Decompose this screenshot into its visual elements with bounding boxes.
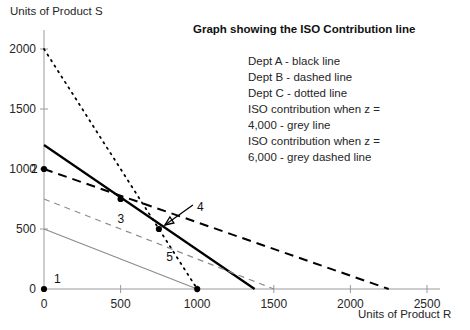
- chart-figure: Units of Product S Graph showing the ISO…: [0, 0, 470, 330]
- data-point-marker: [118, 196, 124, 202]
- data-point-marker: [41, 286, 47, 292]
- x-tick-label: 1000: [177, 298, 217, 310]
- point-label-3: 3: [118, 213, 125, 225]
- series-line: [44, 145, 255, 289]
- plot-area: [0, 0, 470, 330]
- point-label-5: 5: [166, 251, 173, 263]
- series-line: [44, 49, 197, 289]
- x-tick-label: 0: [24, 298, 64, 310]
- series-line: [44, 199, 274, 289]
- point-label-4: 4: [197, 201, 204, 213]
- axes-group: [40, 30, 440, 293]
- y-tick-label: 1500: [2, 103, 36, 115]
- annotation-arrow-line: [165, 205, 193, 225]
- x-tick-label: 500: [101, 298, 141, 310]
- series-group: [44, 49, 389, 289]
- y-tick-label: 2000: [2, 43, 36, 55]
- point-label-1: 1: [54, 273, 61, 285]
- point-label-2: 2: [31, 163, 38, 175]
- data-point-marker: [156, 226, 162, 232]
- y-tick-label: 500: [2, 223, 36, 235]
- x-tick-label: 2500: [407, 298, 447, 310]
- y-tick-label: 0: [2, 283, 36, 295]
- series-line: [44, 169, 389, 289]
- series-line: [44, 229, 197, 289]
- x-tick-label: 1500: [254, 298, 294, 310]
- x-tick-label: 2000: [330, 298, 370, 310]
- data-point-marker: [41, 166, 47, 172]
- data-point-marker: [194, 286, 200, 292]
